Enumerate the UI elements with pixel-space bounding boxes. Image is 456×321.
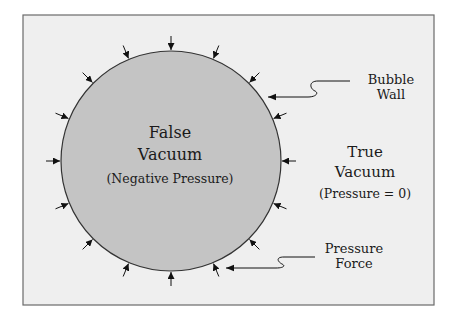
true-vacuum-title-line2: Vacuum xyxy=(334,163,395,181)
pressure-force-label-line2: Force xyxy=(335,256,373,271)
true-vacuum-subtitle: (Pressure = 0) xyxy=(319,186,411,201)
false-vacuum-subtitle: (Negative Pressure) xyxy=(106,171,233,186)
pressure-force-label-line1: Pressure xyxy=(325,241,384,256)
true-vacuum-title-line1: True xyxy=(347,143,383,161)
bubble-wall-label-line2: Wall xyxy=(377,87,405,102)
false-vacuum-title-line2: Vacuum xyxy=(137,145,202,164)
false-vacuum-title-line1: False xyxy=(149,123,191,142)
bubble-wall-label-line1: Bubble xyxy=(368,72,415,87)
false-vacuum-bubble-diagram: Bubble Wall Pressure Force False Vacuum … xyxy=(0,0,456,321)
